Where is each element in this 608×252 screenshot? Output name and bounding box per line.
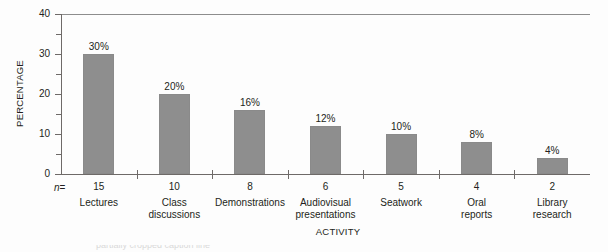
category-n-value: 8 bbox=[212, 181, 288, 194]
bar-value-label: 8% bbox=[452, 129, 502, 140]
bar bbox=[83, 54, 114, 174]
bar bbox=[159, 94, 190, 174]
category-name-line: presentations bbox=[288, 209, 364, 222]
category-label: 15Lectures bbox=[61, 181, 137, 209]
caption-sliver-text: partially cropped caption line bbox=[96, 245, 210, 250]
category-label: 2Libraryresearch bbox=[514, 181, 590, 222]
y-axis-labels: 010203040 bbox=[28, 0, 50, 252]
y-tick-label-0: 0 bbox=[30, 169, 50, 179]
bar bbox=[234, 110, 265, 174]
category-label: 6Audiovisualpresentations bbox=[288, 181, 364, 222]
y-tick-label-40: 40 bbox=[30, 9, 50, 19]
category-n-value: 15 bbox=[61, 181, 137, 194]
y-axis-title: PERCENTAGE bbox=[14, 54, 25, 134]
category-n-value: 10 bbox=[137, 181, 213, 194]
category-n-value: 4 bbox=[439, 181, 515, 194]
chart-figure: PERCENTAGE 010203040 30%20%16%12%10%8%4%… bbox=[0, 0, 608, 252]
bar-value-label: 30% bbox=[74, 41, 124, 52]
category-name-line: Class bbox=[137, 197, 213, 210]
category-label: 4Oralreports bbox=[439, 181, 515, 222]
category-name-line: Library bbox=[514, 197, 590, 210]
category-name-line: Lectures bbox=[61, 197, 137, 210]
bar bbox=[537, 158, 568, 174]
y-tick-0 bbox=[55, 174, 62, 175]
y-tick-label-30: 30 bbox=[30, 49, 50, 59]
bar-value-label: 16% bbox=[225, 97, 275, 108]
bar-value-label: 10% bbox=[376, 121, 426, 132]
category-label: 5Seatwork bbox=[363, 181, 439, 209]
category-label: 8Demonstrations bbox=[212, 181, 288, 209]
category-n-value: 5 bbox=[363, 181, 439, 194]
bar bbox=[461, 142, 492, 174]
x-axis-line bbox=[61, 174, 590, 175]
y-tick-label-10: 10 bbox=[30, 129, 50, 139]
category-n-value: 6 bbox=[288, 181, 364, 194]
category-name-line: discussions bbox=[137, 209, 213, 222]
bar-value-label: 4% bbox=[527, 145, 577, 156]
x-axis-title-text: ACTIVITY bbox=[316, 226, 360, 237]
category-label: 10Classdiscussions bbox=[137, 181, 213, 222]
caption-sliver: partially cropped caption line bbox=[0, 245, 608, 252]
bar bbox=[386, 134, 417, 174]
category-name-line: research bbox=[514, 209, 590, 222]
bar bbox=[310, 126, 341, 174]
category-name-line: Audiovisual bbox=[288, 197, 364, 210]
bar-value-label: 20% bbox=[149, 81, 199, 92]
category-name-line: Seatwork bbox=[363, 197, 439, 210]
bar-value-label: 12% bbox=[301, 113, 351, 124]
bars-group bbox=[61, 14, 590, 174]
x-axis-title: ACTIVITY bbox=[0, 226, 608, 237]
category-name-line: Oral bbox=[439, 197, 515, 210]
category-name-line: Demonstrations bbox=[212, 197, 288, 210]
category-name-line: reports bbox=[439, 209, 515, 222]
y-tick-label-20: 20 bbox=[30, 89, 50, 99]
category-n-value: 2 bbox=[514, 181, 590, 194]
